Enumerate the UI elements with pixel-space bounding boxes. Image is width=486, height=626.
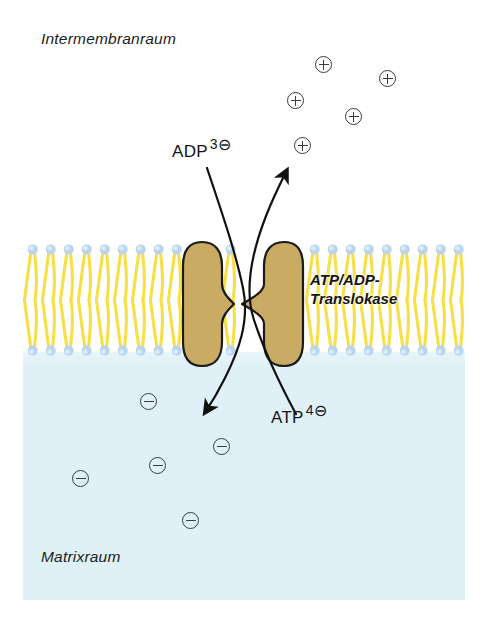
charge-bar-horizontal <box>217 446 227 448</box>
proton-plus-charge-icon <box>294 137 311 154</box>
charge-bar-vertical <box>302 141 304 151</box>
charge-bar-vertical <box>353 112 355 122</box>
atp-efflux-arrow <box>250 172 296 414</box>
translocase-caption: ATP/ADP- Translokase <box>310 270 397 308</box>
charge-bar-horizontal <box>144 401 154 403</box>
proton-plus-charge-icon <box>379 70 396 87</box>
minus-charge-icon: ⊖ <box>218 136 231 153</box>
charge-bar-vertical <box>323 60 325 70</box>
minus-charge-icon <box>213 438 230 455</box>
translocase-caption-line1: ATP/ADP- <box>310 270 397 289</box>
transport-arrows-layer <box>0 0 486 626</box>
matrix-space-label: Matrixraum <box>41 548 121 566</box>
adp-name-text: ADP <box>172 142 208 161</box>
intermembrane-space-label: Intermembranraum <box>41 30 176 48</box>
adp-molecule-label: ADP3⊖ <box>172 142 231 162</box>
atp-charge-group: 4⊖ <box>306 402 327 418</box>
minus-charge-icon <box>72 470 89 487</box>
charge-bar-horizontal <box>186 520 196 522</box>
atp-name-text: ATP <box>271 408 304 427</box>
proton-plus-charge-icon <box>287 92 304 109</box>
adp-influx-arrow <box>206 168 245 411</box>
proton-plus-charge-icon <box>315 56 332 73</box>
charge-bar-vertical <box>387 74 389 84</box>
minus-charge-icon <box>149 457 166 474</box>
atp-charge-number: 4 <box>306 402 314 418</box>
minus-charge-icon <box>182 512 199 529</box>
adp-charge-number: 3 <box>210 136 218 152</box>
diagram-canvas: Intermembranraum Matrixraum ADP3⊖ ATP4⊖ … <box>0 0 486 626</box>
charge-bar-vertical <box>295 96 297 106</box>
atp-molecule-label: ATP4⊖ <box>271 408 327 428</box>
minus-charge-icon <box>140 393 157 410</box>
translocase-caption-line2: Translokase <box>310 289 397 308</box>
charge-bar-horizontal <box>76 478 86 480</box>
proton-plus-charge-icon <box>345 108 362 125</box>
adp-charge-group: 3⊖ <box>210 136 231 152</box>
minus-charge-icon: ⊖ <box>314 402 327 419</box>
charge-bar-horizontal <box>153 465 163 467</box>
